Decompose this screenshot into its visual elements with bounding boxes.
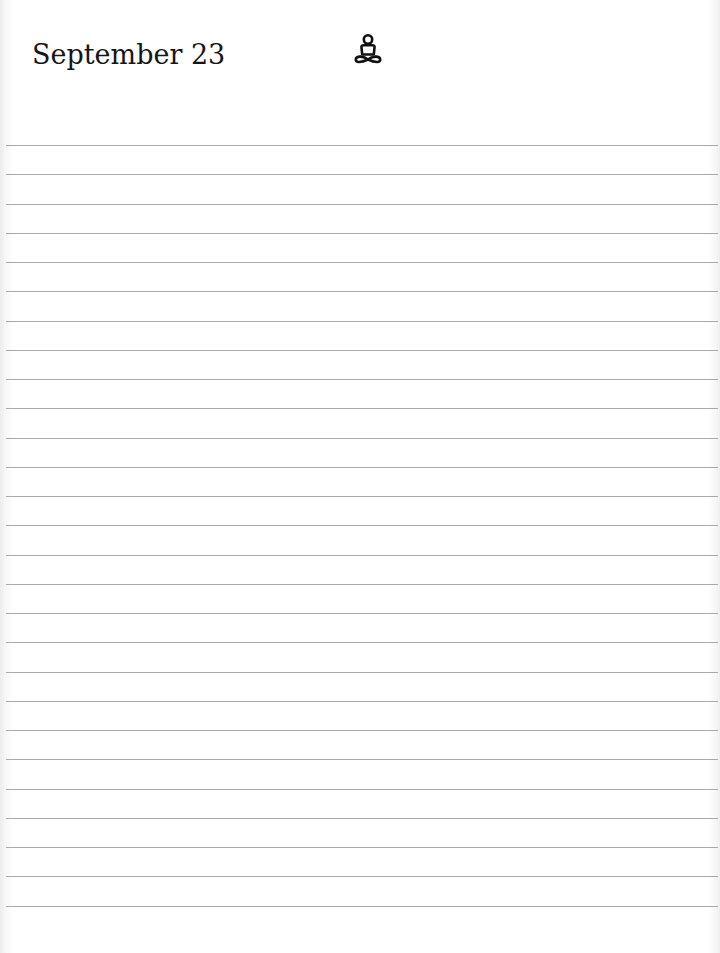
ruled-line (6, 906, 718, 907)
ruled-lines-area[interactable] (0, 0, 720, 953)
ruled-line (6, 847, 718, 848)
ruled-line (6, 262, 718, 263)
ruled-line (6, 759, 718, 760)
ruled-line (6, 525, 718, 526)
ruled-line (6, 730, 718, 731)
ruled-line (6, 467, 718, 468)
ruled-line (6, 642, 718, 643)
ruled-line (6, 438, 718, 439)
ruled-line (6, 876, 718, 877)
ruled-line (6, 555, 718, 556)
ruled-line (6, 408, 718, 409)
ruled-line (6, 701, 718, 702)
ruled-line (6, 672, 718, 673)
ruled-line (6, 204, 718, 205)
ruled-line (6, 379, 718, 380)
ruled-line (6, 233, 718, 234)
ruled-line (6, 291, 718, 292)
ruled-line (6, 145, 718, 146)
ruled-line (6, 789, 718, 790)
ruled-line (6, 613, 718, 614)
ruled-line (6, 584, 718, 585)
ruled-line (6, 818, 718, 819)
ruled-line (6, 321, 718, 322)
ruled-line (6, 174, 718, 175)
ruled-line (6, 350, 718, 351)
ruled-line (6, 496, 718, 497)
